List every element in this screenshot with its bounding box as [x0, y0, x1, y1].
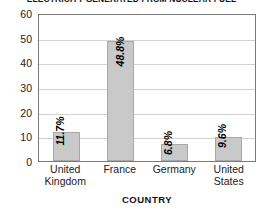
x-axis-category-line: Kingdom	[39, 176, 92, 188]
y-axis-tick-label: 60	[2, 9, 32, 19]
bar[interactable]: 9.6%	[215, 137, 242, 161]
bar-slot: 6.8%	[147, 15, 201, 161]
y-axis-tick-label: 50	[2, 34, 32, 44]
bar[interactable]: 6.8%	[161, 144, 188, 161]
bar-chart: ELECTRICITY GENERATED FROM NUCLEAR FUEL …	[0, 0, 263, 212]
plot-area: 11.7%48.8%6.8%9.6%	[38, 14, 256, 162]
y-axis: 0102030405060	[0, 14, 36, 162]
bar-value-label: 9.6%	[217, 124, 228, 148]
bar-value-label: 6.8%	[163, 131, 174, 155]
y-axis-tick-label: 10	[2, 132, 32, 142]
x-axis-category-label: UnitedKingdom	[38, 164, 93, 192]
x-axis-category-line: France	[94, 164, 147, 176]
y-axis-tick-label: 40	[2, 58, 32, 68]
x-axis-category-label: Germany	[147, 164, 202, 192]
x-axis-category-label: France	[93, 164, 148, 192]
bar-value-label: 11.7%	[55, 117, 66, 146]
bar[interactable]: 11.7%	[53, 132, 80, 161]
x-axis-title: COUNTRY	[38, 194, 256, 205]
x-axis-category-line: Germany	[148, 164, 201, 176]
x-axis-category-label: UnitedStates	[202, 164, 257, 192]
x-axis-category-line: States	[203, 176, 256, 188]
bar-slot: 48.8%	[93, 15, 147, 161]
bar-slot: 11.7%	[39, 15, 93, 161]
bar-value-label: 48.8%	[115, 36, 126, 66]
bars-layer: 11.7%48.8%6.8%9.6%	[39, 15, 255, 161]
bar[interactable]: 48.8%	[107, 41, 134, 161]
y-axis-tick-label: 0	[2, 157, 32, 167]
y-axis-tick-label: 30	[2, 83, 32, 93]
x-axis-category-line: United	[39, 164, 92, 176]
chart-title: ELECTRICITY GENERATED FROM NUCLEAR FUEL	[0, 0, 263, 5]
bar-slot: 9.6%	[201, 15, 255, 161]
x-axis: UnitedKingdomFranceGermanyUnitedStates	[38, 164, 256, 192]
x-axis-category-line: United	[203, 164, 256, 176]
y-axis-tick-label: 20	[2, 108, 32, 118]
